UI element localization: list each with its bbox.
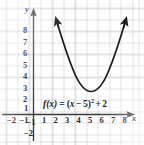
scan-highlight-overlay [0, 0, 144, 145]
quadratic-graph-figure: y x 8 7 6 5 4 3 2 1 −1 −2 −2 −1 1 2 3 4 … [0, 0, 144, 145]
